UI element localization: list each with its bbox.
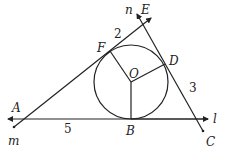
line-n-endpoint xyxy=(202,130,205,133)
label-m: m xyxy=(8,134,19,148)
length-ab: 5 xyxy=(64,122,72,136)
label-d: D xyxy=(168,54,179,68)
label-o: O xyxy=(129,67,139,81)
radius-of xyxy=(110,51,131,82)
geometry-diagram: A B C D E F O l m n 2 3 5 xyxy=(0,0,227,149)
length-dc: 3 xyxy=(189,81,197,95)
length-ef: 2 xyxy=(114,27,122,41)
label-l: l xyxy=(213,112,217,126)
label-e: E xyxy=(140,3,150,17)
label-f: F xyxy=(96,41,106,55)
label-n: n xyxy=(125,3,133,17)
label-c: C xyxy=(206,135,215,149)
label-a: A xyxy=(11,101,21,115)
label-b: B xyxy=(125,124,135,138)
line-m-endpoint xyxy=(13,126,16,129)
line-n xyxy=(137,14,203,131)
